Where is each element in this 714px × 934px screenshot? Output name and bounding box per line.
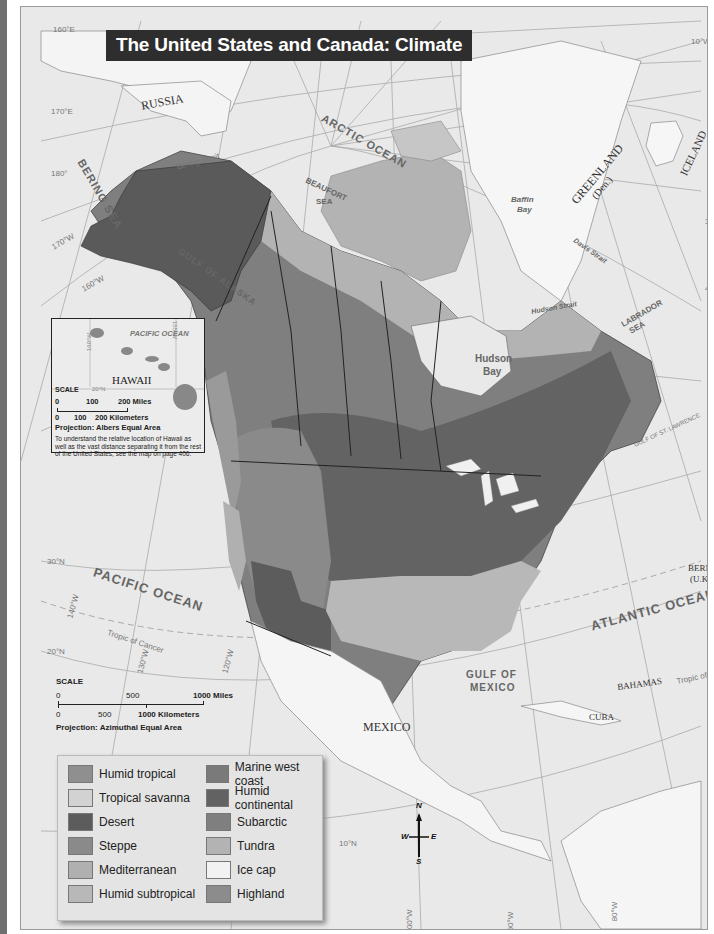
label-bermuda-sub: (U.K.) [690,574,708,584]
inset-km-100: 100 [74,413,87,422]
legend-item-steppe: Steppe [68,837,137,855]
legend-item-ice-cap: Ice cap [206,861,276,879]
main-scale-km-500: 500 [98,710,111,719]
swatch-subarctic [206,813,231,831]
legend-label: Highland [237,887,284,901]
label-40w: 40°W [705,284,708,293]
hawaii-inset: PACIFIC OCEAN HAWAII 160°W 155°W 20°N SC… [51,318,205,453]
legend-label: Tundra [237,839,275,853]
main-scale-mile-500: 500 [126,691,139,700]
label-hudson: Hudson [475,353,512,364]
legend-label: Humid subtropical [99,887,195,901]
main-scale-km-1000: 1000 Kilometers [138,710,199,719]
legend-item-desert: Desert [68,813,134,831]
swatch-humid-subtropical [68,885,93,903]
legend-item-subarctic: Subarctic [206,813,287,831]
legend-item-highland: Highland [206,885,284,903]
label-bermuda: BERMUDA [688,563,708,573]
label-beaufort-sea: SEA [316,197,332,206]
legend-label: Steppe [99,839,137,853]
legend-item-tundra: Tundra [206,837,275,855]
inset-ocean-label: PACIFIC OCEAN [130,329,189,338]
label-90w: 90°W [506,912,515,930]
label-100w: 100°W [405,909,414,930]
main-scale-projection: Projection: Azimuthal Equal Area [56,723,182,732]
main-scale-km-0: 0 [56,710,60,719]
swatch-tropical-savanna [68,789,93,807]
compass-n: N [416,801,422,810]
inset-scale-bar [57,408,128,412]
inset-mile-100: 100 [86,397,99,406]
inset-note: To understand the relative location of H… [55,435,201,458]
label-180: 180° [51,169,68,178]
inset-mile-0: 0 [55,397,59,406]
legend-label: Ice cap [237,863,276,877]
label-cuba: CUBA [589,712,614,722]
inset-km-0: 0 [55,413,59,422]
inset-20n: 20°N [92,386,105,392]
compass-rose: N S W E [399,807,439,867]
swatch-steppe [68,837,93,855]
swatch-tundra [206,837,231,855]
main-scale-mile-0: 0 [56,691,60,700]
legend-item-marine-west-coast: Marine west coast [206,765,322,783]
greenland-shape [461,41,641,301]
label-20n-left: 20°N [47,647,65,656]
legend-item-mediterranean: Mediterranean [68,861,176,879]
label-baffin: Baffin [511,195,534,204]
label-170e: 170°E [51,107,73,116]
compass-s: S [416,857,421,866]
label-10n: 10°N [339,839,357,848]
inset-projection: Projection: Albers Equal Area [55,423,160,432]
iceland-shape [646,121,683,166]
swatch-highland [206,885,231,903]
legend-label: Humid tropical [99,767,176,781]
main-scale-bar-km [58,704,147,708]
label-10w: 10°W [691,37,708,46]
legend-label: Tropical savanna [99,791,190,805]
label-20w: 20°W [707,165,708,174]
compass-e: E [431,832,436,841]
page-edge-strip [0,0,7,934]
label-gulf-of: GULF OF [466,669,517,680]
label-gulf-mexico: MEXICO [470,682,515,693]
label-30w: 30°W [705,217,708,226]
label-hudson-bay: Bay [483,366,501,377]
legend-item-humid-continental: Humid continental [206,789,322,807]
swatch-humid-continental [206,789,229,807]
legend-label: Desert [99,815,134,829]
legend-label: Humid continental [235,784,322,812]
swatch-humid-tropical [68,765,93,783]
label-baffin-bay: Bay [517,205,532,214]
main-scale-label: SCALE [56,677,83,686]
inset-160w: 160°W [86,333,92,351]
map-title: The United States and Canada: Climate [106,30,472,61]
swatch-ice-cap [206,861,231,879]
label-mexico: MEXICO [363,720,410,735]
legend-item-tropical-savanna: Tropical savanna [68,789,190,807]
inset-km-200: 200 Kilometers [95,413,148,422]
legend-item-humid-tropical: Humid tropical [68,765,176,783]
label-50n: 50°N [707,352,708,361]
climate-legend: Humid tropical Tropical savanna Desert S… [57,755,323,921]
label-30n-left: 30°N [47,557,65,566]
swatch-marine-west-coast [206,765,229,783]
legend-label: Subarctic [237,815,287,829]
inset-mile-200: 200 Miles [118,397,151,406]
legend-label: Mediterranean [99,863,176,877]
label-40n: 40°N [707,485,708,494]
compass-w: W [401,832,409,841]
legend-item-humid-subtropical: Humid subtropical [68,885,195,903]
label-80w: 80°W [610,902,619,922]
swatch-desert [68,813,93,831]
swatch-mediterranean [68,861,93,879]
inset-scale-label: SCALE [55,386,79,393]
label-160e: 160°E [53,25,75,34]
label-10n-right: 10°N [707,799,708,808]
main-scale-mile-1000: 1000 Miles [193,691,233,700]
map-frame: The United States and Canada: Climate RU… [20,6,708,930]
inset-hawaii-label: HAWAII [112,374,151,386]
inset-155w: 155°W [172,321,178,339]
